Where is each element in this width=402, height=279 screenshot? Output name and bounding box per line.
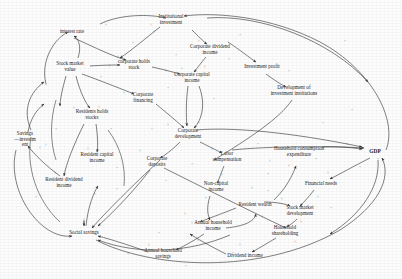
edge-stockdev-to-hhshare [287,219,297,227]
edge-labor-to-noncapital [217,166,224,183]
edge-residentshold-to-rescapital [96,124,98,152]
edge-right-outer-sweep [184,15,389,150]
edge-dividend-to-annualhhincome [190,234,226,254]
edge-plain-left2 [52,100,57,160]
edge-gdp-to-financialneeds [330,158,370,179]
edge-institutional-to-right [207,18,368,82]
edge-hhshare-to-dividend [252,238,276,252]
edge-corpdev-to-gdp [196,129,362,147]
edge-socialsavings-up [86,186,98,226]
edge-stockvalue-down-left [60,76,66,106]
edge-investprofit-to-devinst [266,74,286,87]
edge-annualhhincome-to-reswealth [226,214,256,228]
edge-corpdeposits-to-hhshare [164,168,286,228]
edge-corpcapital-to-corpdev-2 [194,86,203,128]
edge-corpdiv-to-corpcapital [194,57,206,72]
edge-institutional-to-corpdiv [192,30,207,44]
edge-corpdiv-to-investprofit [228,42,256,62]
edge-bottom-outer-sweep [96,158,385,263]
edge-noncapital-to-annualhhincome [208,196,210,220]
edge-annualhhincome-to-annualsavings [176,234,204,250]
edge-stockvalue-to-residentshold [76,76,90,108]
edge-institutional-to-corpholds [120,27,160,58]
diagram-edges [0,0,402,279]
edge-corpdev-to-labor [200,142,222,153]
edge-devinst-to-down [214,100,292,160]
edge-left-lower-sweep [14,150,72,236]
edge-corpdev-to-corpdeposits [160,142,180,158]
edge-income-to-socialsavings-arc [98,235,230,250]
edge-resdiv-to-savinvest [28,146,60,176]
edge-plain-left [30,137,60,222]
edge-reswealth-to-stockdev [264,202,290,206]
edge-corpcapital-to-corpdev [186,86,188,126]
edge-reswealth-to-hhconsume [274,166,296,200]
edge-interest-to-corpholds [74,38,126,60]
edge-reswealth-from-income [200,208,236,222]
edge-plain-mid [108,130,124,186]
edge-gdp-outer-down [330,160,378,234]
edge-financialneeds-to-stockdev [300,190,314,206]
edge-stockvalue-to-corpfin [82,74,134,94]
edge-outer-top-left [100,16,166,24]
edge-left-riser [45,32,68,84]
edge-corpholds-to-corpcapital [152,67,180,74]
edge-stockvalue-to-corpholds [90,65,120,66]
edge-corpdeposits-to-socialsavings [98,170,150,226]
edge-residentshold-to-resdiv [64,124,84,176]
causal-loop-diagram-canvas: interest rateInstitutional investmentSto… [0,0,402,279]
edge-corpfin-to-corpdev [156,104,184,128]
